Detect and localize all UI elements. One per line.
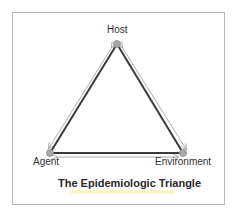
label-environment: Environment — [155, 156, 211, 167]
label-host: Host — [107, 24, 128, 35]
edge-host-agent — [50, 44, 117, 153]
label-agent: Agent — [33, 156, 59, 167]
arrow-host-agent — [49, 47, 112, 148]
node-host — [114, 41, 121, 48]
arrow-host-environment — [122, 47, 186, 149]
diagram-title: The Epidemiologic Triangle — [58, 177, 201, 189]
title-highlight — [70, 190, 175, 194]
edge-host-environment — [117, 44, 183, 153]
